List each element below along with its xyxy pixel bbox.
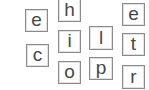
- tile-letter: c: [33, 45, 43, 64]
- letter-tile-r[interactable]: r: [122, 65, 145, 89]
- letter-tile-h[interactable]: h: [58, 0, 81, 22]
- tile-letter: l: [99, 28, 103, 47]
- letter-tile-l[interactable]: l: [89, 26, 113, 50]
- letter-tile-i[interactable]: i: [58, 30, 81, 53]
- letter-tile-e-1[interactable]: e: [25, 9, 48, 32]
- tile-letter: p: [96, 58, 107, 77]
- tile-letter: r: [130, 67, 136, 86]
- tile-letter: e: [31, 10, 42, 29]
- tile-letter: o: [64, 62, 75, 81]
- letter-tile-p[interactable]: p: [89, 57, 113, 80]
- tile-letter: t: [131, 34, 136, 53]
- letter-tile-c[interactable]: c: [26, 44, 49, 67]
- tile-letter: e: [128, 4, 139, 23]
- letter-tile-e-2[interactable]: e: [122, 3, 145, 26]
- letter-tile-t[interactable]: t: [122, 33, 145, 56]
- tile-letter: h: [64, 0, 75, 19]
- tile-letter: i: [67, 31, 71, 50]
- letter-tile-o[interactable]: o: [58, 61, 81, 84]
